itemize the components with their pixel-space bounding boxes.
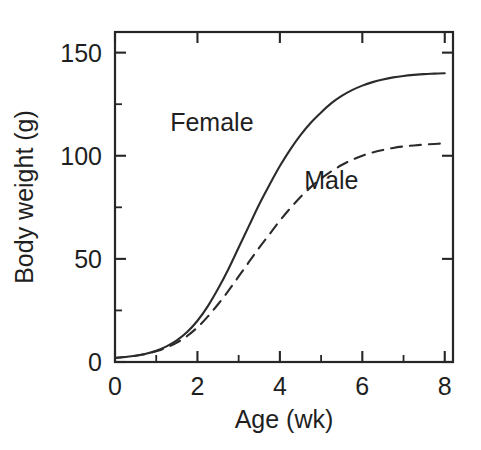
- y-axis-title: Body weight (g): [10, 110, 38, 284]
- x-tick-label-4: 4: [273, 372, 287, 400]
- series-label-female: Female: [170, 108, 253, 136]
- x-tick-label-6: 6: [355, 372, 369, 400]
- series-label-male: Male: [304, 166, 358, 194]
- y-tick-label-100: 100: [60, 142, 102, 170]
- y-tick-label-50: 50: [74, 245, 102, 273]
- growth-curve-figure: 050100150 02468 FemaleMale Age (wk) Body…: [0, 0, 481, 450]
- body-weight-vs-age-chart: 050100150 02468 FemaleMale Age (wk) Body…: [0, 0, 481, 450]
- x-tick-label-0: 0: [108, 372, 122, 400]
- x-tick-label-2: 2: [190, 372, 204, 400]
- x-tick-label-8: 8: [438, 372, 452, 400]
- y-tick-label-150: 150: [60, 39, 102, 67]
- figure-background: [0, 0, 481, 450]
- x-axis-title: Age (wk): [235, 405, 334, 433]
- y-tick-label-0: 0: [88, 348, 102, 376]
